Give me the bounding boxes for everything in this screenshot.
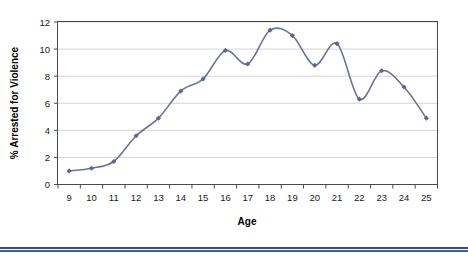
divider-line-bottom	[0, 250, 468, 252]
y-tick-label: 8	[45, 71, 50, 82]
x-tick-label: 21	[332, 192, 343, 203]
x-tick-label: 25	[421, 192, 432, 203]
y-tick-label: 2	[45, 152, 50, 163]
x-tick-label: 12	[131, 192, 142, 203]
x-tick-label: 11	[109, 192, 119, 203]
x-tick-label: 9	[67, 192, 72, 203]
line-chart: 024681012 910111213141516171819202122232…	[0, 0, 468, 232]
x-tick-label: 13	[153, 192, 164, 203]
x-tick-label: 19	[287, 192, 298, 203]
x-tick-label: 17	[242, 192, 253, 203]
x-axis-title: Age	[238, 216, 257, 227]
y-tick-label: 10	[39, 44, 50, 55]
x-tick-label: 22	[354, 192, 365, 203]
x-tick-label: 18	[265, 192, 276, 203]
y-tick-label: 0	[45, 179, 50, 190]
x-tick-label: 14	[175, 192, 186, 203]
x-tick-label: 16	[220, 192, 231, 203]
x-tick-label: 15	[198, 192, 209, 203]
x-tick-label: 20	[309, 192, 320, 203]
y-tick-label: 6	[45, 98, 50, 109]
x-tick-label: 23	[376, 192, 387, 203]
y-axis-title: % Arrested for Violence	[9, 46, 20, 159]
chart-figure: 024681012 910111213141516171819202122232…	[0, 0, 468, 232]
x-tick-label: 10	[86, 192, 97, 203]
divider-line-top	[0, 247, 468, 249]
y-tick-label: 4	[45, 125, 50, 136]
x-tick-label: 24	[399, 192, 410, 203]
y-tick-label: 12	[39, 17, 50, 28]
bottom-divider	[0, 247, 468, 252]
